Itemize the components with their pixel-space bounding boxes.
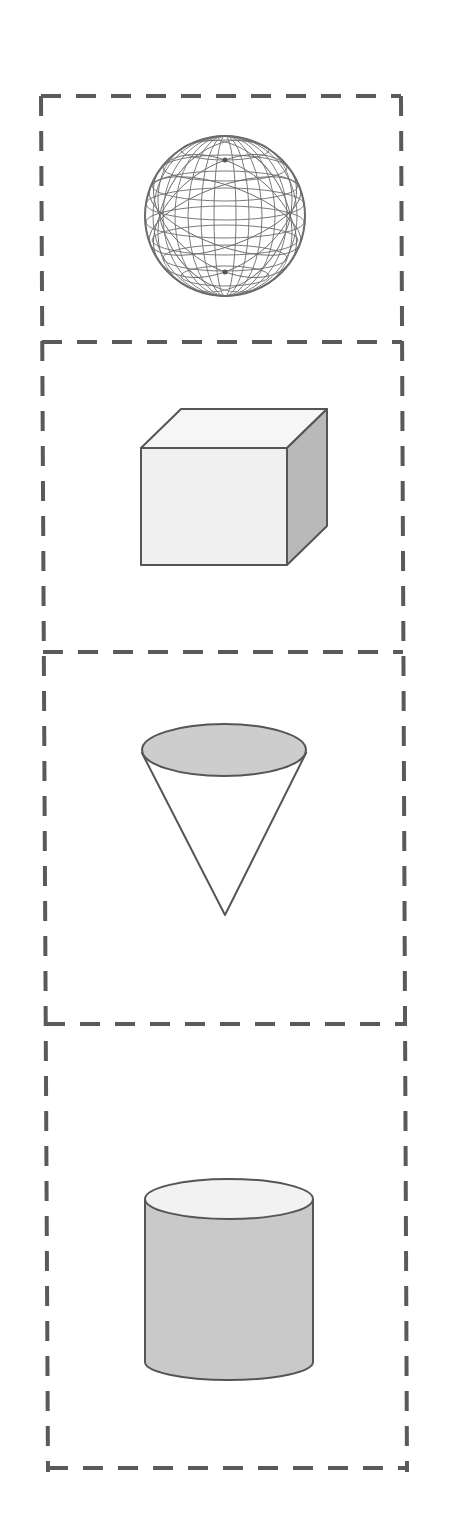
panel-cube: Cube [0,0,327,565]
cube-shape [141,409,327,565]
cone-shape [142,724,306,915]
solids-diagram: Geometric solids [0,0,453,1540]
cylinder-shape [145,1179,313,1380]
sphere-shape [131,116,319,317]
panel-sphere: Sphere [0,0,319,316]
